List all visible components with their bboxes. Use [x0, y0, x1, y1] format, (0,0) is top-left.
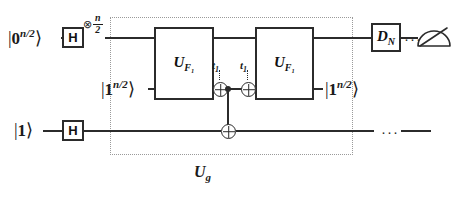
middle-register-output-label: |1n/2⟩ — [325, 79, 359, 98]
middle-wire-segment-out — [313, 88, 323, 90]
tensor-denominator: 2 — [93, 25, 102, 36]
t1-label-left: t1 — [212, 59, 219, 74]
uf1-gate-first-label: UF₁ — [174, 54, 195, 73]
bottom-register-input-label: |1⟩ — [14, 121, 33, 139]
quantum-circuit-diagram: ||00n/2⟩ H ⊗ n 2 |1n/2⟩ |1n/2⟩ |1⟩ H UF₁… — [0, 0, 457, 197]
otimes-icon: ⊗ — [83, 19, 92, 30]
ug-group-label: Ug — [194, 163, 211, 183]
tensor-fraction: n 2 — [93, 13, 103, 35]
bottom-register-ket-close: ⟩ — [26, 120, 33, 140]
middle-register-superscript: n/2 — [113, 78, 128, 90]
middle-register-ket-close: ⟩ — [128, 79, 135, 99]
hadamard-gate-bottom[interactable]: H — [62, 120, 84, 141]
bottom-wire-segment-in — [43, 130, 62, 132]
t1-tick-left — [219, 70, 220, 80]
dn-gate-label: DN — [377, 28, 395, 47]
cnot-target-middle-right[interactable] — [241, 82, 256, 97]
top-register-ket-close: ⟩ — [35, 28, 42, 48]
middle-register-output-ket-close: ⟩ — [352, 79, 359, 99]
uf1-gate-second-label: UF₁ — [274, 54, 295, 73]
cnot-target-bottom[interactable] — [221, 124, 236, 139]
bottom-wire-segment-pre-cnot — [84, 130, 221, 132]
dn-gate[interactable]: DN — [371, 23, 401, 52]
uf1-gate-first[interactable]: UF₁ — [154, 27, 214, 100]
middle-register-output-superscript: n/2 — [337, 78, 352, 90]
bottom-wire-ellipsis: ··· — [381, 124, 399, 139]
t1-tick-right — [247, 70, 248, 80]
top-wire-segment-post-uf1 — [313, 37, 372, 39]
hadamard-gate-top[interactable]: H — [62, 27, 84, 48]
top-register-input-label: ||00n/2⟩ — [8, 28, 42, 47]
tensor-power-annotation: ⊗ n 2 — [83, 13, 103, 35]
t1-label-right: t1 — [240, 59, 247, 74]
control-dot-middle[interactable] — [225, 86, 231, 92]
top-wire-segment-pre-uf1 — [105, 37, 155, 39]
bottom-wire-segment-post-cnot — [236, 130, 374, 132]
bottom-wire-segment-tail — [401, 130, 431, 132]
measurement-meter-icon[interactable] — [416, 20, 452, 50]
top-register-superscript: n/2 — [20, 27, 35, 39]
hadamard-gate-top-label: H — [68, 30, 77, 45]
tensor-numerator: n — [93, 13, 103, 24]
top-wire-segment-mid — [213, 37, 256, 39]
middle-register-input-label: |1n/2⟩ — [101, 79, 135, 98]
uf1-gate-second[interactable]: UF₁ — [255, 27, 314, 100]
hadamard-gate-bottom-label: H — [68, 123, 77, 138]
